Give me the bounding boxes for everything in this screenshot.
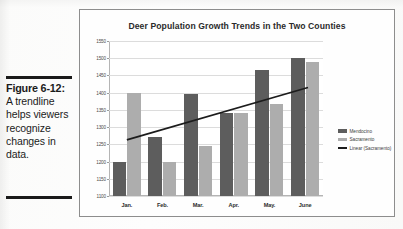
- legend-bar-swatch: [338, 138, 347, 141]
- y-axis-tick-label: 1400: [96, 90, 106, 95]
- y-axis-tick-label: 1150: [97, 176, 106, 181]
- y-axis-tick-label: 1300: [96, 125, 106, 130]
- figure-number: Figure 6-12:: [6, 82, 74, 95]
- legend-label: Sacramento: [350, 137, 375, 142]
- chart-title: Deer Population Growth Trends in the Two…: [80, 21, 394, 31]
- x-axis-tick-label: Apr.: [216, 202, 252, 208]
- y-axis-tick-label: 1450: [96, 73, 106, 78]
- legend-item: Linear (Sacramento): [338, 145, 394, 151]
- plot-area: 1550150014501400135013001250120011501100…: [109, 41, 323, 196]
- x-axis-tick-label: May.: [252, 202, 288, 208]
- y-axis-tick-label: 1200: [96, 159, 106, 164]
- legend-item: Sacramento: [338, 137, 394, 143]
- trendline: [109, 41, 323, 196]
- caption-text: Figure 6-12: A trendline helps viewers r…: [6, 82, 74, 161]
- y-axis-tick-label: 1550: [96, 39, 106, 44]
- caption-rule-bottom: [6, 196, 72, 199]
- chart-legend: MendocinoSacramentoLinear (Sacramento): [338, 128, 394, 154]
- legend-label: Mendocino: [350, 129, 372, 134]
- figure-caption: Figure 6-12: A trendline helps viewers r…: [6, 82, 74, 161]
- x-axis-tick-label: Feb.: [145, 202, 181, 208]
- y-axis-tick-label: 1500: [96, 56, 106, 61]
- y-axis-tick-label: 1350: [96, 107, 106, 112]
- legend-item: Mendocino: [338, 128, 394, 134]
- y-axis-tick-label: 1100: [97, 194, 106, 199]
- scanned-page: Figure 6-12: A trendline helps viewers r…: [0, 0, 403, 229]
- y-axis-tick-label: 1250: [96, 142, 106, 147]
- caption-rule-top: [6, 76, 72, 79]
- caption-body: A trendline helps viewers recognize chan…: [6, 95, 74, 161]
- x-axis-tick-label: Jan.: [109, 202, 145, 208]
- x-axis-tick-label: Mar.: [180, 202, 216, 208]
- chart-container: Deer Population Growth Trends in the Two…: [79, 9, 395, 217]
- legend-line-swatch: [338, 147, 347, 149]
- legend-bar-swatch: [338, 129, 347, 132]
- gridline: [109, 196, 323, 197]
- legend-label: Linear (Sacramento): [350, 146, 392, 151]
- y-axis-tick-mark: [107, 196, 109, 197]
- x-axis-tick-label: June: [287, 202, 323, 208]
